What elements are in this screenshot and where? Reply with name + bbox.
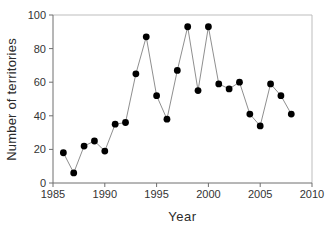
data-point — [246, 111, 253, 118]
y-tick-label: 20 — [34, 143, 46, 155]
x-tick-label: 2000 — [196, 188, 220, 200]
x-axis-title: Year — [53, 209, 312, 224]
data-point — [70, 170, 77, 177]
chart-figure: 198519901995200020052010020406080100 Num… — [0, 0, 330, 227]
y-tick-label: 0 — [40, 177, 46, 189]
x-tick-label: 1995 — [144, 188, 168, 200]
territories-plot: 198519901995200020052010020406080100 — [0, 0, 330, 227]
y-tick-label: 100 — [28, 9, 46, 21]
data-point — [122, 119, 129, 126]
data-point — [132, 70, 139, 77]
data-point — [174, 67, 181, 74]
y-axis-title: Number of territories — [4, 30, 19, 170]
data-point — [164, 116, 171, 123]
x-tick-label: 2005 — [248, 188, 272, 200]
data-point — [91, 138, 98, 145]
data-point — [236, 79, 243, 86]
data-point — [226, 86, 233, 93]
data-point — [112, 121, 119, 128]
data-point — [278, 92, 285, 99]
x-tick-label: 1985 — [41, 188, 65, 200]
y-tick-label: 80 — [34, 43, 46, 55]
y-tick-label: 40 — [34, 110, 46, 122]
data-point — [101, 148, 108, 155]
x-tick-label: 1990 — [93, 188, 117, 200]
data-point — [195, 87, 202, 94]
data-point — [205, 23, 212, 30]
x-tick-label: 2010 — [300, 188, 324, 200]
data-series-line — [63, 27, 291, 173]
data-point — [184, 23, 191, 30]
data-point — [257, 122, 264, 129]
data-point — [288, 111, 295, 118]
data-point — [215, 80, 222, 87]
data-point — [143, 33, 150, 40]
data-point — [81, 143, 88, 150]
y-tick-label: 60 — [34, 76, 46, 88]
data-point — [267, 80, 274, 87]
data-point — [60, 149, 67, 156]
data-point — [153, 92, 160, 99]
